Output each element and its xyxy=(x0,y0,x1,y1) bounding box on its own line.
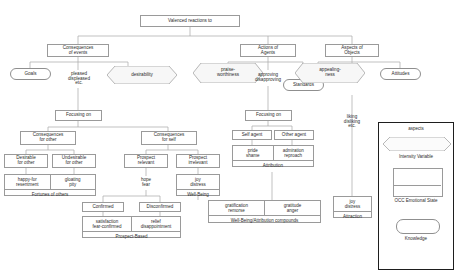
emotion-pair-satisfaction-fears-confirmed: satisfaction fear-confirmed xyxy=(83,217,132,231)
node-other-agent[interactable]: Other agent xyxy=(274,130,314,140)
hexagon-shape xyxy=(383,137,451,151)
emotion-pair-row: joy distress xyxy=(334,197,371,211)
emotion-pair-row: satisfaction fear-confirmed relief disap… xyxy=(83,217,180,231)
emotion-pair-joy-distress: joy distress xyxy=(334,197,371,211)
node-label: pleased displeased etc. xyxy=(68,72,90,86)
node-label: Focusing on xyxy=(66,113,91,118)
compound-attraction[interactable]: joy distress Attraction xyxy=(333,196,372,218)
node-self-agent[interactable]: Self agent xyxy=(232,130,272,140)
node-attitudes[interactable]: Attitudes xyxy=(380,68,421,80)
node-consequences-for-other[interactable]: Consequences for other xyxy=(20,131,76,145)
node-label: Standards xyxy=(293,83,314,88)
emotion-pair-row: joy distress xyxy=(177,175,219,189)
node-desirable-for-other[interactable]: Desirable for other xyxy=(4,154,48,168)
node-label: Self agent xyxy=(242,133,263,138)
label-liking-disliking: liking disliking etc. xyxy=(333,113,371,131)
node-label: hope fear xyxy=(141,178,151,188)
node-undesirable-for-other[interactable]: Undesirable for other xyxy=(52,154,96,168)
node-focusing-on-events[interactable]: Focusing on xyxy=(55,110,102,121)
node-consequences-of-events[interactable]: Consequences of events xyxy=(47,44,109,57)
legend-occ-state-label: OCC Emotional State xyxy=(379,198,453,203)
legend-knowledge-label: Knowledge xyxy=(379,236,453,241)
node-confirmed[interactable]: Confirmed xyxy=(82,202,124,212)
legend-intensity-variable-title: aspects xyxy=(379,126,453,131)
node-valenced-reactions[interactable]: Valenced reactions to xyxy=(140,15,240,27)
node-prospect-relevant[interactable]: Prospect relevant xyxy=(124,154,168,168)
node-label: Goals xyxy=(24,72,36,77)
legend-knowledge-shape xyxy=(396,219,440,234)
legend-occ-state-divider xyxy=(393,185,441,186)
node-goals[interactable]: Goals xyxy=(10,68,51,80)
label-approving-disapproving: approving disapproving xyxy=(243,70,293,86)
node-label: Actions of Agents xyxy=(258,46,278,56)
emotion-pair-gloating-pity: gloating pity xyxy=(51,175,96,189)
compound-group-label: Well-Being xyxy=(177,189,219,198)
label-pleased-displeased: pleased displeased etc. xyxy=(56,70,102,88)
emotion-pair-row: gratification remorse gratitude anger xyxy=(209,201,320,215)
emotion-pair-gratitude-anger: gratitude anger xyxy=(265,201,320,215)
node-label: liking disliking etc. xyxy=(344,115,360,129)
node-label: approving disapproving xyxy=(255,73,281,83)
node-label: Focusing on xyxy=(256,113,281,118)
node-actions-of-agents[interactable]: Actions of Agents xyxy=(240,44,296,57)
emotion-pair-gratification-remorse: gratification remorse xyxy=(209,201,265,215)
node-prospect-irrelevant[interactable]: Prospect irrelevant xyxy=(176,154,220,168)
node-label: Desirable for other xyxy=(16,156,35,166)
node-disconfirmed[interactable]: Disconfirmed xyxy=(139,202,181,212)
compound-group-label: Prospect-Based xyxy=(83,231,180,240)
emotion-pair-row: pride shame admiration reproach xyxy=(233,146,313,160)
node-label: desirability xyxy=(131,73,153,78)
node-label: Prospect relevant xyxy=(137,156,155,166)
node-label: Consequences for other xyxy=(33,133,64,143)
emotion-pair-pride-shame: pride shame xyxy=(233,146,274,160)
node-label: praise- worthiness xyxy=(217,68,239,78)
legend-occ-state-shape xyxy=(393,168,443,197)
node-focusing-on-agents[interactable]: Focusing on xyxy=(245,110,292,121)
compound-fortunes-of-others[interactable]: happy-for resentment gloating pity Fortu… xyxy=(4,174,96,196)
node-label: Confirmed xyxy=(92,205,113,210)
compound-wellbeing-attribution[interactable]: gratification remorse gratitude anger We… xyxy=(208,200,321,223)
node-label: appealing- ness xyxy=(319,68,340,78)
compound-attribution[interactable]: pride shame admiration reproach Attribut… xyxy=(232,145,314,167)
compound-group-label: Well-Being/Attribution compounds xyxy=(209,215,320,224)
node-label: Consequences of events xyxy=(63,46,94,56)
node-label: Disconfirmed xyxy=(147,205,174,210)
compound-well-being[interactable]: joy distress Well-Being xyxy=(176,174,220,196)
emotion-pair-happy-for-resentment: happy-for resentment xyxy=(5,175,51,189)
node-aspects-of-objects[interactable]: Aspects of Objects xyxy=(325,44,379,57)
legend-intensity-variable-shape xyxy=(383,137,451,151)
node-label: Prospect irrelevant xyxy=(189,156,208,166)
emotion-pair-admiration-reproach: admiration reproach xyxy=(274,146,314,160)
node-consequences-for-self[interactable]: Consequences for self xyxy=(141,131,197,145)
node-label: Undesirable for other xyxy=(62,156,87,166)
node-label: Other agent xyxy=(282,133,306,138)
legend-intensity-variable-label: Intensity Variable xyxy=(379,154,453,159)
compound-group-label: Attribution xyxy=(233,160,313,169)
occ-diagram-canvas: Valenced reactions to Consequences of ev… xyxy=(0,0,457,275)
compound-group-label: Fortunes of others xyxy=(5,189,95,198)
emotion-pair-row: happy-for resentment gloating pity xyxy=(5,175,95,189)
node-desirability[interactable]: desirability xyxy=(107,66,177,84)
legend-panel: aspects Intensity Variable OCC Emotional… xyxy=(378,122,454,270)
emotion-pair-joy-distress: joy distress xyxy=(177,175,219,189)
compound-group-label: Attraction xyxy=(334,211,371,220)
node-appealingness[interactable]: appealing- ness xyxy=(295,63,365,83)
node-label: Consequences for self xyxy=(154,133,185,143)
node-label: Aspects of Objects xyxy=(341,46,362,56)
compound-prospect-based[interactable]: satisfaction fear-confirmed relief disap… xyxy=(82,216,181,238)
label-hope-fear: hope fear xyxy=(128,176,164,190)
emotion-pair-relief-disappointment: relief disappointment xyxy=(132,217,180,231)
node-label: Attitudes xyxy=(392,72,410,77)
node-label: Valenced reactions to xyxy=(168,19,212,24)
